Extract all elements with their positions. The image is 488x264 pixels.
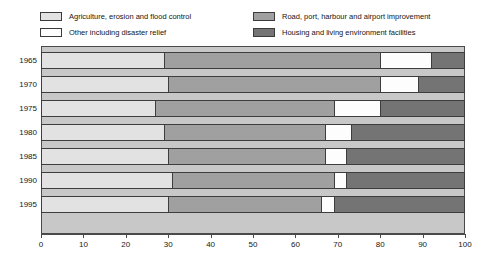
bar-segment bbox=[41, 100, 155, 117]
bar-segment bbox=[346, 172, 465, 189]
bar-row bbox=[41, 76, 465, 93]
bar-segment bbox=[41, 52, 164, 69]
y-axis-label: 1995 bbox=[3, 200, 37, 210]
x-axis-tick bbox=[295, 234, 296, 238]
bar-segment bbox=[155, 100, 333, 117]
bar-segment bbox=[41, 148, 168, 165]
bar-segment bbox=[334, 172, 347, 189]
x-axis-tick-label: 20 bbox=[106, 240, 146, 250]
y-axis-label: 1970 bbox=[3, 80, 37, 90]
legend-item-housing: Housing and living environment facilitie… bbox=[253, 25, 430, 39]
bar-segment bbox=[164, 124, 325, 141]
y-axis-label: 1965 bbox=[3, 56, 37, 66]
x-axis-tick-label: 70 bbox=[318, 240, 358, 250]
x-axis-tick-label: 80 bbox=[360, 240, 400, 250]
y-axis-label: 1975 bbox=[3, 104, 37, 114]
stacked-bar bbox=[41, 196, 465, 213]
bar-segment bbox=[41, 172, 172, 189]
bar-row bbox=[41, 124, 465, 141]
stacked-bar bbox=[41, 172, 465, 189]
stacked-bar bbox=[41, 76, 465, 93]
bar-segment bbox=[168, 148, 325, 165]
x-axis-tick-label: 10 bbox=[63, 240, 103, 250]
legend-swatch-other bbox=[40, 28, 62, 37]
bar-segment bbox=[380, 76, 418, 93]
x-axis-tick-label: 50 bbox=[233, 240, 273, 250]
x-axis-tick-label: 30 bbox=[148, 240, 188, 250]
bar-segment bbox=[380, 100, 465, 117]
x-axis-tick-label: 100 bbox=[445, 240, 485, 250]
bar-segment bbox=[321, 196, 334, 213]
bar-segment bbox=[164, 52, 380, 69]
legend-item-road: Road, port, harbour and airport improvem… bbox=[253, 9, 430, 23]
bar-row bbox=[41, 172, 465, 189]
x-axis-tick-label: 40 bbox=[191, 240, 231, 250]
x-axis-tick bbox=[126, 234, 127, 238]
bar-segment bbox=[41, 196, 168, 213]
stacked-bar bbox=[41, 148, 465, 165]
y-axis-label: 1985 bbox=[3, 152, 37, 162]
stacked-bar bbox=[41, 52, 465, 69]
x-axis-tick bbox=[380, 234, 381, 238]
y-axis-label: 1990 bbox=[3, 176, 37, 186]
legend-label-housing: Housing and living environment facilitie… bbox=[282, 28, 415, 37]
bar-segment bbox=[41, 76, 168, 93]
bar-rows-container bbox=[41, 46, 465, 234]
legend-label-agriculture: Agriculture, erosion and flood control bbox=[69, 12, 191, 21]
legend-label-other: Other including disaster relief bbox=[69, 28, 166, 37]
y-axis-category-labels: 1965197019751980198519901995 bbox=[0, 46, 37, 234]
x-axis-tick bbox=[83, 234, 84, 238]
legend-item-agriculture: Agriculture, erosion and flood control bbox=[40, 9, 191, 23]
bar-segment bbox=[41, 124, 164, 141]
bar-segment bbox=[351, 124, 465, 141]
bar-row bbox=[41, 52, 465, 69]
bar-row bbox=[41, 148, 465, 165]
x-axis-tick-label: 90 bbox=[403, 240, 443, 250]
x-axis-tick-label: 60 bbox=[275, 240, 315, 250]
x-axis-tick bbox=[41, 234, 42, 238]
bar-row bbox=[41, 196, 465, 213]
bar-segment bbox=[346, 148, 465, 165]
stacked-bar bbox=[41, 100, 465, 117]
bar-segment bbox=[172, 172, 333, 189]
legend-swatch-road bbox=[253, 12, 275, 21]
legend-swatch-agriculture bbox=[40, 12, 62, 21]
legend-label-road: Road, port, harbour and airport improvem… bbox=[282, 12, 430, 21]
bar-segment bbox=[334, 196, 465, 213]
stacked-bar bbox=[41, 124, 465, 141]
x-axis-tick-label: 0 bbox=[21, 240, 61, 250]
bar-row bbox=[41, 100, 465, 117]
stacked-bar-chart: Agriculture, erosion and flood control O… bbox=[0, 0, 488, 264]
x-axis-tick bbox=[168, 234, 169, 238]
legend-item-other: Other including disaster relief bbox=[40, 25, 191, 39]
bar-segment bbox=[325, 124, 350, 141]
x-axis-tick bbox=[253, 234, 254, 238]
bar-segment bbox=[168, 196, 321, 213]
chart-legend: Agriculture, erosion and flood control O… bbox=[40, 9, 480, 39]
y-axis-label: 1980 bbox=[3, 128, 37, 138]
bar-segment bbox=[334, 100, 381, 117]
x-axis-tick bbox=[423, 234, 424, 238]
bar-segment bbox=[431, 52, 465, 69]
legend-swatch-housing bbox=[253, 28, 275, 37]
x-axis-tick bbox=[338, 234, 339, 238]
legend-column-left: Agriculture, erosion and flood control O… bbox=[40, 9, 191, 41]
x-axis-tick bbox=[465, 234, 466, 238]
bar-segment bbox=[380, 52, 431, 69]
bar-segment bbox=[418, 76, 465, 93]
bar-segment bbox=[325, 148, 346, 165]
legend-column-right: Road, port, harbour and airport improvem… bbox=[253, 9, 430, 41]
x-axis-tick bbox=[211, 234, 212, 238]
bar-segment bbox=[168, 76, 380, 93]
